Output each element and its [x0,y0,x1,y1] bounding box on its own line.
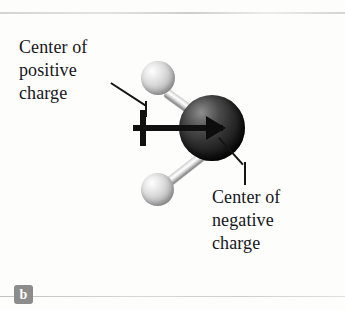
bottom-rule [0,296,345,297]
label-center-of-negative-charge: Center of negative charge [212,186,280,255]
label-center-of-positive-charge: Center of positive charge [19,36,87,105]
dipole-arrowhead [206,116,226,140]
figure-panel: Center of positive charge Center of nega… [0,0,345,310]
leader-line-negative-stem [244,162,246,185]
panel-letter-badge: b [14,285,33,304]
leader-line-positive-stem [145,101,147,117]
